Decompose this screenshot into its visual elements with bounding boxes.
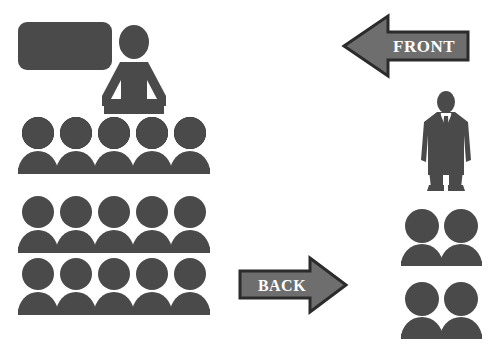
audience-head	[174, 258, 206, 290]
audience-head	[136, 258, 168, 290]
front-arrow[interactable]: FRONT	[344, 16, 468, 76]
audience-head	[98, 196, 130, 228]
side-pair-lower	[401, 282, 482, 339]
audience-row-1	[18, 117, 210, 174]
audience-head	[22, 258, 54, 290]
standing-businessman	[421, 91, 471, 191]
businessman-shoe-right	[448, 185, 465, 191]
side-person-head	[405, 282, 439, 316]
back-arrow-label: BACK	[258, 277, 306, 294]
front-arrow-label: FRONT	[393, 37, 455, 56]
audience-row-base	[18, 309, 210, 315]
audience-head	[22, 196, 54, 228]
audience-head	[60, 258, 92, 290]
back-arrow[interactable]: BACK	[240, 258, 346, 312]
audience-head	[98, 258, 130, 290]
audience-row-base	[18, 168, 210, 174]
side-pair-upper	[401, 209, 482, 266]
teacher-desk	[104, 100, 164, 114]
teacher-torso	[102, 62, 166, 106]
side-person-head	[444, 209, 478, 243]
diagram-canvas: FRONT BACK	[0, 0, 500, 350]
audience-row-3	[18, 258, 210, 315]
audience-head	[174, 196, 206, 228]
audience-head	[136, 196, 168, 228]
side-person-head	[444, 282, 478, 316]
side-pair-base	[401, 261, 482, 266]
audience-row-base	[18, 247, 210, 253]
audience-head	[60, 196, 92, 228]
audience-row-2	[18, 196, 210, 253]
side-pair-base	[401, 334, 482, 339]
businessman-head	[437, 91, 455, 113]
whiteboard	[18, 22, 112, 70]
side-person-head	[405, 209, 439, 243]
businessman-shoe-left	[427, 185, 444, 191]
teacher-head	[119, 25, 149, 59]
businessman-tie	[443, 116, 449, 134]
classroom-diagram: FRONT BACK	[0, 0, 500, 350]
